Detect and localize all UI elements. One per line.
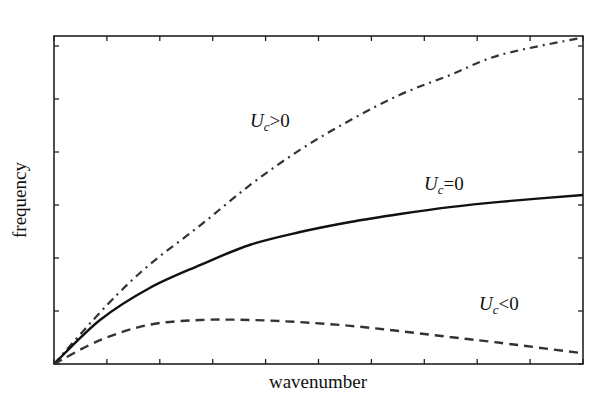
annotation-uc-positive: Uc>0 [250, 110, 290, 135]
annotation-var: U [424, 173, 438, 194]
y-axis-label: frequency [9, 162, 31, 238]
annotation-rel: >0 [270, 110, 290, 131]
x-axis-label: wavenumber [269, 371, 367, 393]
annotation-uc-zero: Uc=0 [424, 173, 464, 198]
annotation-rel: <0 [499, 293, 519, 314]
curve-dashed [54, 320, 580, 364]
curve-solid [54, 195, 583, 364]
annotation-uc-negative: Uc<0 [479, 293, 519, 318]
annotation-rel: =0 [444, 173, 464, 194]
dispersion-chart [0, 0, 606, 413]
annotation-var: U [479, 293, 493, 314]
annotation-var: U [250, 110, 264, 131]
